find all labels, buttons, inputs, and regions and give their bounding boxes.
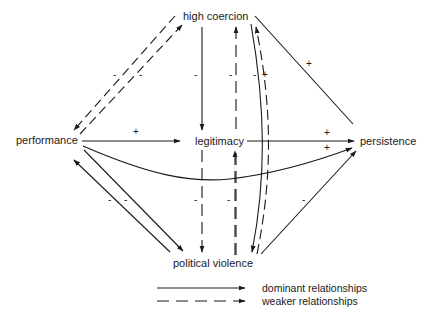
sign-legitimacy-violence: - (194, 195, 197, 205)
edge-violence-to-performance (74, 160, 170, 252)
sign-violence-coercion-curved: + (262, 70, 268, 80)
sign-violence-persistence: - (302, 195, 305, 205)
edge-coercion-to-persistence (255, 16, 353, 124)
sign-coercion-persistence: + (306, 59, 312, 69)
sign-perf-coercion-2: - (139, 70, 142, 80)
edge-performance-to-coercion (80, 25, 182, 134)
edge-coercion-to-violence (251, 24, 262, 252)
sign-performance-violence: - (124, 195, 127, 205)
sign-legitimacy-persistence: + (324, 128, 330, 138)
node-legitimacy: legitimacy (193, 135, 246, 147)
edge-coercion-to-performance (74, 16, 175, 130)
sign-violence-performance: - (108, 195, 111, 205)
legend-weaker-label: weaker relationships (262, 295, 358, 307)
legend-dominant-label: dominant relationships (262, 282, 367, 294)
edge-performance-to-persistence (83, 146, 352, 180)
sign-performance-legitimacy: + (133, 127, 139, 137)
sign-coercion-violence: - (253, 70, 256, 80)
causal-diagram (0, 0, 430, 321)
sign-performance-persistence: + (324, 143, 330, 153)
node-persistence: persistence (360, 135, 416, 147)
edge-violence-to-persistence (261, 151, 356, 254)
node-performance: performance (16, 134, 78, 146)
node-political-violence: political violence (172, 257, 254, 269)
sign-violence-coercion: - (229, 70, 232, 80)
sign-violence-legitimacy: - (227, 195, 230, 205)
sign-perf-coercion-1: - (113, 70, 116, 80)
node-high-coercion: high coercion (183, 10, 248, 22)
sign-coercion-legitimacy: - (194, 70, 197, 80)
